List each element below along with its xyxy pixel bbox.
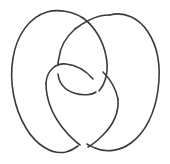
knot-strand-central-loop-descending-strand: [83, 18, 107, 91]
knot-strand-central-loop-left-side: [58, 29, 75, 65]
knot-diagram-svg: [0, 0, 170, 164]
knot-strand-heart-right-lower-arc: [88, 99, 118, 147]
knot-strand-heart-top-right-arc: [103, 72, 118, 99]
knot-strand-heart-top-left-arc: [46, 64, 93, 83]
knot-strand-heart-left-lower-arc: [46, 83, 80, 145]
knot-strand-group: [12, 11, 159, 153]
knot-diagram-canvas: [0, 0, 170, 164]
